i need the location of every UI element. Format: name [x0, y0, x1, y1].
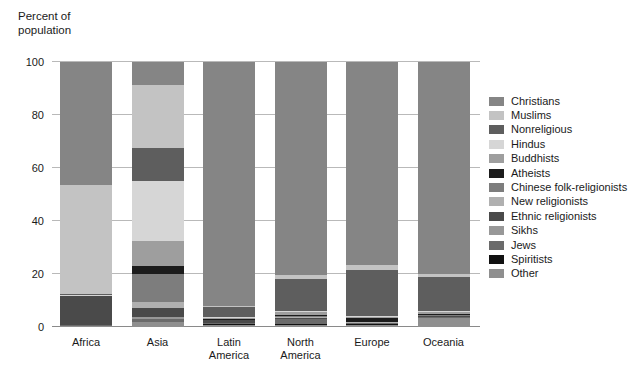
- legend-item[interactable]: Spiritists: [489, 252, 627, 266]
- bar-segment: [346, 265, 398, 270]
- bar-segment: [275, 275, 327, 279]
- bar-segment: [203, 320, 255, 323]
- legend-item[interactable]: Ethnic religionists: [489, 209, 627, 223]
- bar-segment: [418, 62, 470, 274]
- bar-segment: [203, 324, 255, 326]
- bar-segment: [203, 319, 255, 320]
- legend-item[interactable]: Buddhists: [489, 152, 627, 166]
- bar-segment: [60, 296, 112, 325]
- legend-item-label: Jews: [511, 240, 536, 251]
- legend-swatch-icon: [489, 197, 504, 206]
- bar-segment: [132, 319, 184, 322]
- bar-segment: [275, 317, 327, 318]
- legend-swatch-icon: [489, 269, 504, 278]
- bar-segment: [418, 312, 470, 313]
- bar-segment: [275, 62, 327, 275]
- bar-segment: [60, 294, 112, 295]
- bar-segment: [203, 62, 255, 306]
- legend-item-label: Sikhs: [511, 225, 538, 236]
- legend-swatch-icon: [489, 226, 504, 235]
- legend-swatch-icon: [489, 97, 504, 106]
- bar-segment: [132, 266, 184, 274]
- y-tick-label: 20: [32, 268, 44, 280]
- legend-item[interactable]: Chinese folk-religionists: [489, 180, 627, 194]
- legend-item-label: Chinese folk-religionists: [511, 182, 627, 193]
- bar-oceania[interactable]: [418, 62, 470, 327]
- legend-swatch-icon: [489, 154, 504, 163]
- bar-segment: [203, 325, 255, 327]
- bar-segment: [132, 308, 184, 317]
- bar-segment: [275, 317, 327, 318]
- legend-item[interactable]: Jews: [489, 238, 627, 252]
- legend-item-label: Nonreligious: [511, 124, 572, 135]
- gridline: [52, 167, 480, 168]
- bar-segment: [346, 317, 398, 318]
- bar-segment: [418, 318, 470, 327]
- gridline: [52, 61, 480, 62]
- bar-segment: [346, 270, 398, 316]
- bar-segment: [60, 185, 112, 294]
- bar-segment: [418, 314, 470, 315]
- bar-segment: [132, 317, 184, 319]
- bar-segment: [132, 181, 184, 241]
- legend-item-label: New religionists: [511, 196, 588, 207]
- legend-item[interactable]: Sikhs: [489, 224, 627, 238]
- bar-europe[interactable]: [346, 62, 398, 327]
- legend-swatch-icon: [489, 183, 504, 192]
- bar-segment: [132, 322, 184, 327]
- plot-area: [52, 62, 480, 327]
- legend-swatch-icon: [489, 111, 504, 120]
- bar-segment: [275, 315, 327, 317]
- x-tick-label: Oceania: [399, 336, 489, 349]
- legend-item-label: Hindus: [511, 139, 545, 150]
- legend-item[interactable]: Muslims: [489, 108, 627, 122]
- y-tick-label: 40: [32, 215, 44, 227]
- bar-segment: [60, 62, 112, 185]
- legend-item[interactable]: Other: [489, 267, 627, 281]
- y-axis-tick-labels: 020406080100: [0, 0, 52, 377]
- legend-item-label: Muslims: [511, 110, 551, 121]
- y-tick-label: 60: [32, 162, 44, 174]
- bar-africa[interactable]: [60, 62, 112, 327]
- bar-segment: [346, 324, 398, 327]
- legend-item[interactable]: Hindus: [489, 137, 627, 151]
- legend-item[interactable]: Christians: [489, 94, 627, 108]
- bar-segment: [418, 317, 470, 318]
- legend-swatch-icon: [489, 212, 504, 221]
- bar-segment: [132, 241, 184, 266]
- x-axis-line: [52, 326, 480, 327]
- y-tick-label: 0: [38, 321, 44, 333]
- legend-item-label: Ethnic religionists: [511, 211, 597, 222]
- bar-segment: [418, 316, 470, 317]
- legend-item-label: Spiritists: [511, 254, 553, 265]
- legend-item-label: Christians: [511, 96, 560, 107]
- bar-segment: [275, 324, 327, 327]
- bar-segment: [132, 302, 184, 308]
- gridline: [52, 114, 480, 115]
- legend-item[interactable]: New religionists: [489, 195, 627, 209]
- gridline: [52, 273, 480, 274]
- bar-latin-america[interactable]: [203, 62, 255, 327]
- bar-segment: [418, 311, 470, 313]
- bar-segment: [203, 307, 255, 318]
- legend-item[interactable]: Nonreligious: [489, 123, 627, 137]
- bar-segment: [418, 277, 470, 310]
- bar-north-america[interactable]: [275, 62, 327, 327]
- legend-item-label: Atheists: [511, 168, 550, 179]
- legend-item[interactable]: Atheists: [489, 166, 627, 180]
- bar-segment: [275, 311, 327, 312]
- legend-swatch-icon: [489, 125, 504, 134]
- chart-legend: ChristiansMuslimsNonreligiousHindusBuddh…: [489, 94, 627, 281]
- stacked-bar-chart: Percent of population 020406080100 Chris…: [0, 0, 634, 377]
- y-tick-label: 100: [26, 56, 44, 68]
- bar-segment: [275, 312, 327, 314]
- bar-segment: [203, 306, 255, 307]
- bar-segment: [275, 279, 327, 311]
- bar-segment: [418, 274, 470, 277]
- legend-swatch-icon: [489, 255, 504, 264]
- bar-asia[interactable]: [132, 62, 184, 327]
- bar-segment: [346, 62, 398, 265]
- bar-segment: [60, 326, 112, 327]
- bar-segment: [132, 62, 184, 85]
- bar-segment: [275, 319, 327, 324]
